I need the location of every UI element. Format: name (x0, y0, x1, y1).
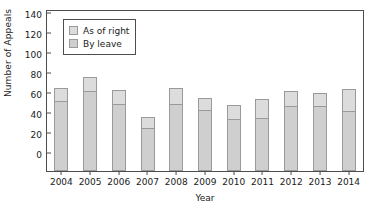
x-axis-tick-label: 2007 (136, 177, 159, 187)
x-axis-tick-label: 2006 (107, 177, 130, 187)
x-axis-tick-mark (233, 171, 234, 175)
bar-2012 (284, 91, 298, 171)
bar-2004 (54, 88, 68, 171)
y-axis-tick: 20 (31, 123, 47, 142)
bar-2014 (342, 89, 356, 171)
bar-segment-by-leave (54, 101, 68, 171)
x-axis-tick-mark (348, 171, 349, 175)
legend-item-by-leave: By leave (69, 37, 129, 50)
y-axis-tick-mark (47, 92, 51, 93)
x-axis-tick-mark (90, 171, 91, 175)
bar-chart: Number of Appeals Year 02040608010012014… (0, 0, 373, 213)
x-axis-tick: 2009 (194, 171, 217, 187)
bar-segment-by-leave (313, 106, 327, 171)
y-axis-tick: 140 (25, 3, 47, 22)
bar-segment-by-leave (227, 119, 241, 171)
y-axis-tick: 40 (31, 103, 47, 122)
y-axis-tick: 100 (25, 43, 47, 62)
x-axis-tick: 2011 (251, 171, 274, 187)
bar-segment-by-leave (255, 118, 269, 171)
bar-segment-by-leave (169, 104, 183, 171)
bar-2013 (313, 93, 327, 171)
x-axis-tick-label: 2008 (165, 177, 188, 187)
y-axis-tick-mark (47, 12, 51, 13)
bar-2007 (141, 117, 155, 171)
x-axis-tick-label: 2005 (79, 177, 102, 187)
bar-segment-by-leave (342, 111, 356, 171)
x-axis-tick-mark (176, 171, 177, 175)
x-axis-tick: 2013 (308, 171, 331, 187)
legend-swatch-as-of-right (69, 26, 78, 35)
y-axis-tick-mark (47, 72, 51, 73)
x-axis-tick-mark (118, 171, 119, 175)
y-axis-tick-label: 40 (31, 110, 47, 120)
y-axis-tick-label: 60 (31, 90, 47, 100)
y-axis-tick: 0 (36, 143, 47, 162)
x-axis-tick-label: 2012 (280, 177, 303, 187)
x-axis-tick-mark (319, 171, 320, 175)
y-axis-tick: 120 (25, 23, 47, 42)
x-axis-tick-label: 2011 (251, 177, 274, 187)
x-axis-tick-label: 2013 (308, 177, 331, 187)
bar-2011 (255, 99, 269, 171)
x-axis-tick-label: 2009 (194, 177, 217, 187)
x-axis-tick: 2007 (136, 171, 159, 187)
y-axis-tick-mark (47, 32, 51, 33)
legend-swatch-by-leave (69, 39, 78, 48)
x-axis-tick-mark (147, 171, 148, 175)
y-axis-tick-label: 100 (25, 50, 47, 60)
y-axis-tick-label: 20 (31, 130, 47, 140)
x-axis-tick-mark (262, 171, 263, 175)
bar-2009 (198, 98, 212, 171)
bar-segment-by-leave (83, 91, 97, 171)
legend-label-by-leave: By leave (83, 39, 122, 49)
bar-segment-by-leave (141, 128, 155, 171)
legend-item-as-of-right: As of right (69, 24, 129, 37)
y-axis-tick: 80 (31, 63, 47, 82)
bar-2006 (112, 90, 126, 171)
x-axis-tick-mark (205, 171, 206, 175)
bar-segment-by-leave (284, 106, 298, 171)
bar-segment-by-leave (198, 110, 212, 171)
bar-2010 (227, 105, 241, 171)
y-axis-tick-mark (47, 112, 51, 113)
x-axis-tick-label: 2004 (50, 177, 73, 187)
x-axis-tick-mark (61, 171, 62, 175)
x-axis-tick-mark (291, 171, 292, 175)
x-axis-title: Year (46, 193, 364, 203)
y-axis-tick-label: 0 (36, 150, 47, 160)
bar-2005 (83, 77, 97, 171)
y-axis-tick: 60 (31, 83, 47, 102)
x-axis-tick: 2006 (107, 171, 130, 187)
y-axis-tick-mark (47, 132, 51, 133)
x-axis-tick: 2004 (50, 171, 73, 187)
y-axis-tick-label: 120 (25, 30, 47, 40)
bar-segment-by-leave (112, 104, 126, 171)
x-axis-tick: 2010 (222, 171, 245, 187)
y-axis-tick-label: 140 (25, 10, 47, 20)
x-axis-tick-label: 2010 (222, 177, 245, 187)
plot-area: 020406080100120140160 200420052006200720… (46, 10, 364, 172)
bar-2008 (169, 88, 183, 171)
x-axis-tick: 2008 (165, 171, 188, 187)
x-axis-tick-label: 2014 (337, 177, 360, 187)
x-axis-tick: 2005 (79, 171, 102, 187)
y-axis-tick-label: 80 (31, 70, 47, 80)
y-axis-tick-mark (47, 152, 51, 153)
chart-legend: As of right By leave (63, 19, 136, 55)
x-axis-tick: 2014 (337, 171, 360, 187)
y-axis-tick: 160 (25, 0, 47, 2)
y-axis-title: Number of Appeals (3, 0, 13, 113)
x-axis-tick: 2012 (280, 171, 303, 187)
legend-label-as-of-right: As of right (83, 26, 129, 36)
y-axis-tick-mark (47, 52, 51, 53)
